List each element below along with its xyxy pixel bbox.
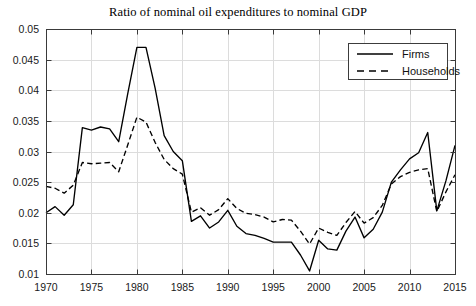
x-tick-label: 2015 [443, 281, 466, 293]
y-tick-label: 0.02 [19, 207, 39, 219]
y-tick-label: 0.04 [19, 84, 39, 96]
y-tick-label: 0.03 [19, 146, 39, 158]
y-tick-label: 0.01 [19, 268, 39, 280]
y-tick-label: 0.015 [13, 237, 39, 249]
legend-label-firms: Firms [402, 48, 430, 60]
legend-label-households: Households [402, 65, 460, 77]
x-tick-label: 1970 [34, 281, 57, 293]
y-tick-label: 0.045 [13, 54, 39, 66]
legend[interactable]: Firms Households [348, 43, 448, 80]
y-tick-label: 0.025 [13, 176, 39, 188]
y-tick-label: 0.035 [13, 115, 39, 127]
legend-entry-firms[interactable]: Firms [349, 45, 447, 63]
legend-line-sample-solid [356, 47, 394, 61]
x-tick-label: 1995 [262, 281, 285, 293]
x-tick-label: 2010 [398, 281, 421, 293]
x-tick-label: 2000 [307, 281, 330, 293]
series-line-households [46, 117, 455, 244]
figure-container: Ratio of nominal oil expenditures to nom… [0, 0, 476, 306]
legend-line-sample-dashed [356, 64, 394, 78]
legend-entry-households[interactable]: Households [349, 62, 447, 80]
x-tick-label: 1980 [125, 281, 148, 293]
data-lines [46, 47, 455, 271]
x-tick-label: 1985 [171, 281, 194, 293]
x-tick-label: 2005 [352, 281, 375, 293]
x-tick-label: 1975 [80, 281, 103, 293]
y-tick-label: 0.05 [19, 23, 39, 35]
x-tick-label: 1990 [216, 281, 239, 293]
series-line-firms [46, 47, 455, 271]
